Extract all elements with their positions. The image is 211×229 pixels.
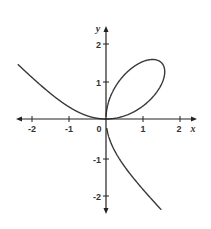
x-tick-label: -1 [65, 124, 73, 134]
origin-label: 0 [96, 124, 101, 134]
y-tick-label: 2 [96, 40, 101, 50]
x-axis-label: x [190, 123, 196, 134]
folium-plot: -2 -1 0 1 2 x 2 1 -1 -2 y [0, 0, 211, 229]
x-tick-label: -2 [28, 124, 36, 134]
y-tick-label: 1 [96, 78, 101, 88]
y-tick-label: -1 [93, 155, 101, 165]
x-tick-label: 2 [176, 124, 181, 134]
y-tick-label: -2 [93, 192, 101, 202]
y-axis-label: y [95, 23, 101, 34]
y-axis-top-arrow-icon [104, 26, 109, 32]
y-axis-bottom-arrow-icon [104, 208, 109, 214]
x-axis-right-arrow-icon [191, 117, 197, 122]
folium-curve [18, 59, 165, 209]
x-tick-label: 1 [140, 124, 145, 134]
x-axis-left-arrow-icon [16, 117, 22, 122]
